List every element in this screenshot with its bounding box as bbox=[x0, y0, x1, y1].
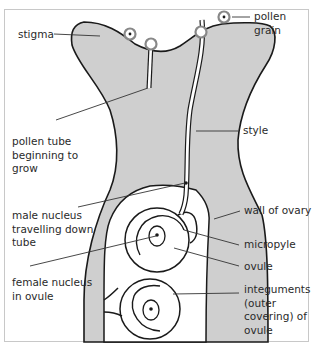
label-micropyle: micropyle bbox=[244, 238, 296, 252]
label-female-nucleus: female nucleus in ovule bbox=[12, 276, 92, 303]
label-stigma: stigma bbox=[18, 28, 54, 42]
label-male-nucleus: male nucleus travelling down tube bbox=[12, 209, 93, 250]
label-integuments: integuments (outer covering) of ovule bbox=[244, 283, 310, 337]
lower-female-nucleus bbox=[149, 307, 153, 311]
pollen-grain-right bbox=[219, 12, 230, 23]
pollen-grain-left bbox=[125, 29, 136, 40]
label-pollen-tube-growing: pollen tube beginning to grow bbox=[12, 135, 78, 176]
label-pollen-grain: pollen grain bbox=[254, 10, 314, 37]
label-wall-of-ovary: wall of ovary bbox=[244, 204, 311, 218]
pollen-grain-germinating-long bbox=[196, 27, 207, 38]
label-style: style bbox=[243, 124, 268, 138]
pollen-grain-germinating-short bbox=[146, 39, 157, 50]
label-ovule: ovule bbox=[244, 260, 273, 274]
